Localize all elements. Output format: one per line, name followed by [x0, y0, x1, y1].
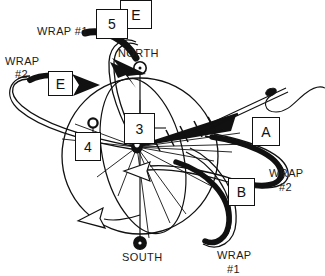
callout-box-5[interactable]: 5 [96, 9, 128, 39]
callout-box-a[interactable]: A [252, 117, 280, 146]
callout-box-e-left[interactable]: E [48, 71, 73, 96]
wrap1-top-label: WRAP #1 [37, 25, 88, 37]
callout-box-3[interactable]: 3 [124, 113, 155, 144]
wrap1-bottom-label-line1: WRAP [217, 249, 252, 261]
wrap-diagram-figure: E 5 E 3 4 A B NORTH SOUTH WRAP #1 WRAP #… [0, 0, 325, 276]
wrap1-bottom-label-line2: #1 [227, 263, 240, 275]
wrap2-right-label-line2: #2 [279, 181, 292, 193]
arrowhead-left-e [72, 74, 100, 96]
node-marker-upper-left [88, 118, 97, 127]
north-pole-label: NORTH [118, 47, 159, 59]
wrap2-right-label-line1: WRAP [269, 167, 304, 179]
south-pole-label: SOUTH [122, 251, 163, 263]
wrap2-left-label-line1: WRAP [5, 55, 40, 67]
south-pole-marker [134, 237, 146, 249]
meridian-ellipse [86, 70, 199, 242]
thick-wrap-strokes [30, 32, 281, 243]
orbit-band-wrap2-left [10, 76, 137, 150]
callout-box-b[interactable]: B [228, 178, 255, 206]
callout-box-4[interactable]: 4 [75, 132, 101, 161]
wrap2-left-label-line2: #2 [15, 68, 28, 80]
